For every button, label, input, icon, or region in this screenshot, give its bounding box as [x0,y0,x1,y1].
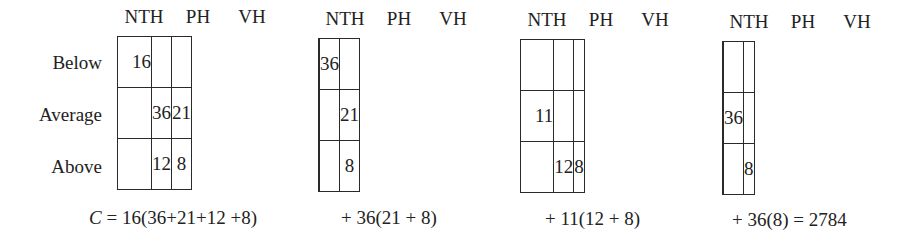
matrix-grid: 16 36 21 12 8 [117,36,192,190]
cell: 36 [152,88,172,139]
matrix-grid: 36 8 [722,41,755,195]
cell: 36 [320,39,340,90]
cell [744,42,755,93]
col-head-vh: VH [628,9,682,31]
col-head-ph: PH [574,9,628,31]
cell [320,90,340,141]
cell: 12 [152,139,172,190]
cell: 16 [118,37,152,88]
col-head-vh: VH [225,6,279,28]
cell [521,40,554,91]
row-label-above: Above [2,156,102,178]
formula-1: C = 16(36+21+12 +8) [89,207,257,229]
col-head-nth: NTH [318,8,372,30]
col-head-ph: PH [776,11,830,33]
formula-2: + 36(21 + 8) [341,207,437,229]
col-head-nth: NTH [117,6,171,28]
cell [574,91,585,142]
cell [554,91,574,142]
cell: 36 [724,93,744,144]
row-label-average: Average [2,104,102,126]
matrix-grid: 11 12 8 [520,39,585,193]
col-head-vh: VH [426,8,480,30]
cell [152,37,172,88]
cell: 8 [172,139,192,190]
cell: 21 [172,88,192,139]
formula-text: = 16(36+21+12 +8) [102,207,257,228]
col-head-vh: VH [830,11,884,33]
col-head-nth: NTH [520,9,574,31]
cell [574,40,585,91]
cell: 8 [744,144,755,195]
formula-4: + 36(8) = 2784 [732,209,847,231]
matrix-grid: 36 21 8 [318,38,360,192]
col-head-ph: PH [171,6,225,28]
cell [744,93,755,144]
cell [172,37,192,88]
cell: 11 [521,91,554,142]
cell: 12 [554,142,574,193]
formula-variable: C [89,207,102,228]
cell [118,139,152,190]
cell [118,88,152,139]
cell [340,39,360,90]
cell [521,142,554,193]
cell: 21 [340,90,360,141]
cell: 8 [574,142,585,193]
cell: 8 [340,141,360,192]
cell [320,141,340,192]
cell [724,42,744,93]
cell [724,144,744,195]
row-label-below: Below [2,52,102,74]
col-head-ph: PH [372,8,426,30]
formula-3: + 11(12 + 8) [545,208,640,230]
cell [554,40,574,91]
col-head-nth: NTH [722,11,776,33]
